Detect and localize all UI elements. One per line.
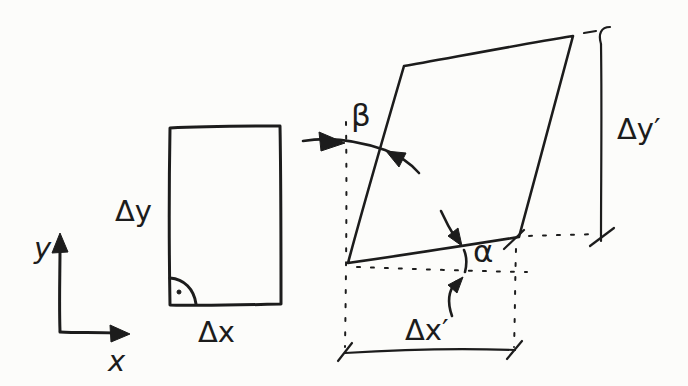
hand-drawn-shear-strain-diagram: y x Δy Δx β α — [0, 0, 688, 386]
horizontal-guide-bottom — [357, 267, 527, 272]
beta-angle-annotation: β — [303, 97, 419, 173]
deformed-parallelogram-group: β α Δy′ Δx′ — [303, 27, 661, 361]
alpha-label: α — [473, 233, 493, 269]
beta-arrowhead-right — [386, 151, 406, 167]
beta-arrowhead-left — [319, 132, 345, 151]
height-dimension: Δy′ — [590, 27, 661, 246]
horizontal-guide-right — [529, 234, 595, 236]
original-rectangle-group: Δy Δx — [115, 126, 281, 349]
x-axis-arrowhead — [110, 325, 130, 342]
y-axis-label: y — [33, 231, 52, 265]
parallelogram-width-label: Δx′ — [405, 313, 449, 347]
original-rectangle — [169, 126, 281, 305]
x-axis-line — [60, 332, 113, 333]
diagram-svg: y x Δy Δx β α — [0, 0, 688, 386]
right-angle-arc — [170, 278, 196, 304]
width-dimension-line — [345, 349, 515, 353]
coordinate-axes: y x — [33, 231, 130, 378]
rect-height-label: Δy — [115, 194, 152, 228]
top-corner-dash — [584, 31, 596, 33]
vertical-guide-left — [345, 122, 346, 347]
beta-label: β — [351, 97, 371, 133]
width-dimension: Δx′ — [338, 313, 522, 361]
alpha-angle-annotation: α — [441, 211, 493, 316]
y-axis-arrowhead — [52, 233, 68, 253]
alpha-angle-arc — [464, 250, 466, 272]
parallelogram-height-label: Δy′ — [617, 112, 661, 146]
x-axis-label: x — [107, 344, 126, 378]
vertical-guide-right — [514, 249, 516, 347]
height-dimension-top-hook — [600, 27, 610, 44]
right-angle-dot — [177, 290, 181, 294]
rect-width-label: Δx — [198, 315, 235, 349]
